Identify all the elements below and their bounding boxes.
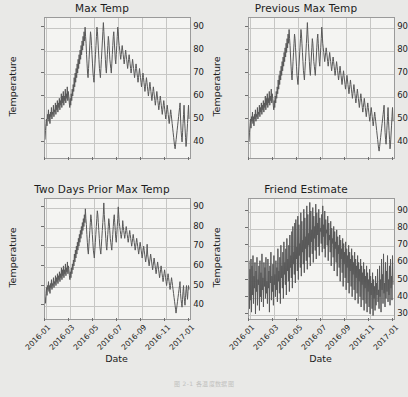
subplot-title: Two Days Prior Max Temp <box>0 183 204 195</box>
x-tick-mark <box>248 157 249 160</box>
y-axis-label: Temperature <box>211 17 222 157</box>
figure-caption: 图 2-1 各温度数据图 <box>0 379 408 388</box>
y-tick-mark <box>41 206 44 207</box>
x-axis-label: Date <box>248 353 393 364</box>
x-tick-mark <box>68 157 69 160</box>
y-tick-mark <box>41 265 44 266</box>
y-axis-label: Temperature <box>211 198 222 318</box>
x-tick-mark <box>44 157 45 160</box>
y-tick-mark <box>41 245 44 246</box>
y-tick-mark <box>41 304 44 305</box>
y-tick-label: 80 <box>371 222 408 232</box>
y-tick-label: 70 <box>371 239 408 249</box>
y-axis-label: Temperature <box>7 198 18 318</box>
x-tick-mark <box>44 318 45 321</box>
x-tick-mark <box>164 318 165 321</box>
y-tick-label: 60 <box>371 90 408 100</box>
x-tick-mark <box>392 157 393 160</box>
x-tick-mark <box>68 318 69 321</box>
subplot-max-temp: Max Temp 405060708090Temperature <box>0 0 204 189</box>
y-tick-mark <box>41 72 44 73</box>
y-axis-label: Temperature <box>7 17 18 157</box>
y-tick-mark <box>245 279 248 280</box>
y-tick-mark <box>245 95 248 96</box>
y-tick-label: 40 <box>371 291 408 301</box>
subplot-title: Friend Estimate <box>204 183 408 195</box>
y-tick-mark <box>245 313 248 314</box>
y-tick-mark <box>41 226 44 227</box>
y-tick-mark <box>245 141 248 142</box>
subplot-title: Previous Max Temp <box>204 2 408 14</box>
y-tick-mark <box>245 118 248 119</box>
y-tick-mark <box>245 49 248 50</box>
y-tick-label: 80 <box>371 44 408 54</box>
y-tick-label: 60 <box>167 260 204 270</box>
figure-container: Max Temp 405060708090Temperature Previou… <box>0 0 408 378</box>
y-tick-label: 40 <box>167 299 204 309</box>
x-tick-mark <box>320 318 321 321</box>
y-tick-label: 90 <box>371 205 408 215</box>
x-tick-mark <box>116 318 117 321</box>
y-tick-label: 50 <box>167 113 204 123</box>
y-tick-label: 60 <box>371 256 408 266</box>
subplot-two-days-prior-max-temp: Two Days Prior Max Temp 4050607080902016… <box>0 181 204 370</box>
y-tick-mark <box>41 95 44 96</box>
y-tick-label: 50 <box>371 113 408 123</box>
y-tick-label: 40 <box>167 136 204 146</box>
subplot-previous-max-temp: Previous Max Temp 405060708090Temperatur… <box>204 0 408 189</box>
x-tick-mark <box>368 318 369 321</box>
x-tick-mark <box>92 157 93 160</box>
y-tick-mark <box>245 261 248 262</box>
x-axis-label: Date <box>44 353 189 364</box>
x-tick-mark <box>164 157 165 160</box>
y-tick-label: 70 <box>371 67 408 77</box>
y-tick-mark <box>41 118 44 119</box>
y-tick-label: 90 <box>167 21 204 31</box>
subplot-title: Max Temp <box>0 2 204 14</box>
x-tick-mark <box>272 318 273 321</box>
x-tick-mark <box>344 157 345 160</box>
y-tick-label: 60 <box>167 90 204 100</box>
y-tick-mark <box>245 72 248 73</box>
y-tick-mark <box>245 296 248 297</box>
y-tick-mark <box>245 227 248 228</box>
x-tick-mark <box>248 318 249 321</box>
x-tick-mark <box>92 318 93 321</box>
x-tick-mark <box>272 157 273 160</box>
y-tick-label: 30 <box>371 308 408 318</box>
y-tick-mark <box>41 26 44 27</box>
y-tick-mark <box>245 210 248 211</box>
y-tick-label: 50 <box>167 280 204 290</box>
x-tick-mark <box>188 157 189 160</box>
x-tick-mark <box>344 318 345 321</box>
x-tick-mark <box>368 157 369 160</box>
y-tick-label: 70 <box>167 67 204 77</box>
y-tick-mark <box>245 26 248 27</box>
y-tick-mark <box>245 244 248 245</box>
y-tick-label: 90 <box>167 201 204 211</box>
y-tick-label: 40 <box>371 136 408 146</box>
y-tick-mark <box>41 141 44 142</box>
x-tick-mark <box>116 157 117 160</box>
y-tick-mark <box>41 49 44 50</box>
y-tick-label: 70 <box>167 240 204 250</box>
y-tick-mark <box>41 285 44 286</box>
x-tick-mark <box>140 157 141 160</box>
x-tick-mark <box>392 318 393 321</box>
x-tick-mark <box>296 157 297 160</box>
y-tick-label: 50 <box>371 274 408 284</box>
x-tick-mark <box>320 157 321 160</box>
subplot-friend-estimate: Friend Estimate 304050607080902016-01201… <box>204 181 408 370</box>
y-tick-label: 90 <box>371 21 408 31</box>
x-tick-mark <box>296 318 297 321</box>
y-tick-label: 80 <box>167 221 204 231</box>
x-tick-mark <box>188 318 189 321</box>
y-tick-label: 80 <box>167 44 204 54</box>
x-tick-mark <box>140 318 141 321</box>
